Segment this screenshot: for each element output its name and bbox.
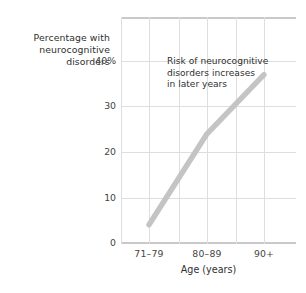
y-tick-label-40: 40% (95, 56, 116, 65)
x-axis-title: Age (years) (121, 264, 296, 275)
chart-annotation: Risk of neurocognitive disorders increas… (167, 56, 287, 91)
x-tick-label-80-89: 80–89 (192, 249, 221, 258)
x-tick-label-90plus: 90+ (254, 249, 274, 258)
x-tick-label-71-79: 71–79 (134, 249, 163, 258)
chart-annotation-line-2: disorders increases (167, 68, 287, 80)
y-tick-label-10: 10 (104, 193, 116, 202)
series-polyline (149, 75, 264, 225)
y-axis-title-line-1: Percentage with (6, 32, 110, 44)
series-line-neurocognitive-disorders (121, 17, 296, 244)
y-tick-label-0: 0 (110, 238, 116, 247)
plot-area: 40% 30 20 10 0 71–79 80–89 90+ (121, 17, 296, 244)
y-tick-label-20: 20 (104, 147, 116, 156)
chart-figure: Percentage with neurocognitive disorders… (0, 0, 306, 293)
chart-annotation-line-3: in later years (167, 79, 287, 91)
chart-annotation-line-1: Risk of neurocognitive (167, 56, 287, 68)
y-tick-label-30: 30 (104, 101, 116, 110)
